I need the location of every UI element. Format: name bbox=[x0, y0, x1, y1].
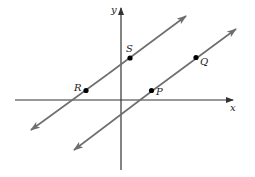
point-r bbox=[83, 88, 88, 93]
point-s bbox=[127, 55, 132, 60]
x-axis-label: x bbox=[230, 102, 236, 113]
label-r: R bbox=[73, 82, 82, 93]
point-p bbox=[149, 88, 154, 93]
label-s: S bbox=[126, 43, 133, 54]
y-axis-label: y bbox=[110, 4, 117, 15]
label-q: Q bbox=[200, 56, 208, 67]
line-rs bbox=[31, 16, 186, 130]
point-q bbox=[193, 55, 198, 60]
coordinate-diagram: y x R S P Q bbox=[0, 0, 255, 177]
label-p: P bbox=[155, 86, 163, 97]
line-pq bbox=[74, 29, 236, 150]
